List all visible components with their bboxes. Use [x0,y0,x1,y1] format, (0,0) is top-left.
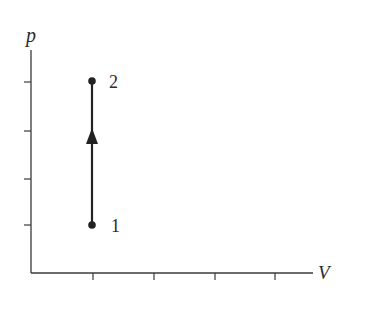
arrow-up-icon [86,128,98,144]
state-point-1 [88,221,96,229]
y-axis-label: p [24,24,36,47]
state-label-2: 2 [109,72,118,92]
state-label-1: 1 [111,216,120,236]
y-ticks [24,82,31,225]
x-axis-label: V [318,262,332,283]
x-ticks [93,273,275,280]
pv-diagram: p V 2 1 [0,0,367,309]
pv-diagram-svg: p V 2 1 [0,0,367,309]
state-point-2 [88,77,96,85]
